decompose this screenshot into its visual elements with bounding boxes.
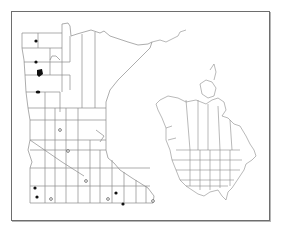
north-america-inset bbox=[152, 30, 256, 200]
minnesota-outline bbox=[22, 23, 154, 203]
distribution-map bbox=[0, 0, 282, 237]
filled-markers bbox=[33, 39, 124, 205]
